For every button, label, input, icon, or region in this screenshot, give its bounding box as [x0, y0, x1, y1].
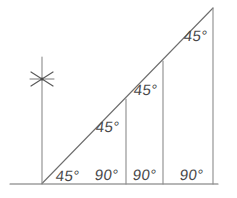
angle-label-diagonal-45-1: 45° [95, 119, 120, 134]
angle-label-base-right-90-3: 90° [179, 167, 204, 182]
angle-label-diagonal-45-3: 45° [183, 28, 208, 43]
angle-label-diagonal-45-2: 45° [133, 82, 158, 97]
angle-label-vertex-45: 45° [55, 168, 80, 183]
star-tick-center-dot [40, 77, 43, 80]
angle-label-base-right-90-2: 90° [132, 167, 157, 182]
geometry-figure-canvas: 45° 90° 45° 90° 45° 90° 45° [0, 0, 237, 198]
angle-label-base-right-90-1: 90° [94, 167, 119, 182]
